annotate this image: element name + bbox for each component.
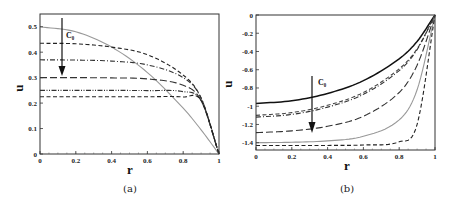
panel-b-xlabel: r bbox=[344, 158, 350, 173]
y-tick-label: -0.8 bbox=[242, 84, 254, 92]
x-tick-label: 0.4 bbox=[323, 153, 332, 161]
arrow-head-icon bbox=[59, 66, 66, 76]
y-tick-label: 0 bbox=[34, 151, 38, 159]
series-curve-3 bbox=[40, 60, 219, 154]
panel-a-xlabel: r bbox=[127, 162, 133, 177]
series-curve-5 bbox=[256, 15, 435, 143]
x-tick-label: 0.8 bbox=[179, 157, 188, 165]
x-tick-label: 0 bbox=[254, 153, 258, 161]
panel-a-annotation: C₀ bbox=[66, 31, 75, 40]
y-tick-label: -1.2 bbox=[242, 121, 254, 129]
x-tick-label: 0.8 bbox=[395, 153, 404, 161]
x-tick-label: 0.4 bbox=[107, 157, 116, 165]
y-tick-label: -0.6 bbox=[242, 66, 254, 74]
x-tick-label: 0.2 bbox=[287, 153, 296, 161]
series-curve-2 bbox=[256, 15, 435, 115]
panel-a: 00.20.40.60.8100.10.20.30.40.5 C₀ u r (a… bbox=[11, 14, 221, 194]
figure: 00.20.40.60.8100.10.20.30.40.5 C₀ u r (a… bbox=[0, 0, 450, 203]
panel-a-ylabel: u bbox=[11, 84, 26, 91]
panel-b-caption: (b) bbox=[340, 183, 354, 194]
panel-a-ticks: 00.20.40.60.8100.10.20.30.40.5 bbox=[28, 23, 221, 165]
y-tick-label: -0.4 bbox=[242, 48, 254, 56]
y-tick-label: 0.2 bbox=[28, 100, 37, 108]
panel-b-ticks: 00.20.40.60.810-0.2-0.4-0.6-0.8-1-1.2-1.… bbox=[242, 12, 437, 162]
panel-b-curves bbox=[256, 15, 435, 145]
y-tick-label: 0.4 bbox=[28, 49, 37, 57]
panel-b-arrow bbox=[309, 76, 316, 133]
y-tick-label: 0.3 bbox=[28, 74, 37, 82]
y-tick-label: 0 bbox=[250, 12, 254, 20]
x-tick-label: 0.2 bbox=[71, 157, 80, 165]
y-tick-label: -0.2 bbox=[242, 30, 254, 38]
series-curve-2 bbox=[40, 43, 219, 154]
series-curve-4 bbox=[256, 15, 435, 133]
series-curve-6 bbox=[40, 95, 219, 154]
panel-b-ylabel: u bbox=[220, 80, 235, 87]
x-tick-label: 1 bbox=[217, 157, 221, 165]
y-tick-label: -1 bbox=[247, 103, 253, 111]
series-curve-6 bbox=[256, 15, 435, 145]
x-tick-label: 0 bbox=[38, 157, 42, 165]
x-tick-label: 1 bbox=[433, 153, 437, 161]
panel-a-curves bbox=[40, 27, 219, 154]
x-tick-label: 0.6 bbox=[359, 153, 368, 161]
y-tick-label: -1.4 bbox=[242, 139, 254, 147]
arrow-head-icon bbox=[309, 122, 316, 133]
y-tick-label: 0.5 bbox=[28, 23, 37, 31]
series-curve-1 bbox=[256, 15, 435, 103]
panel-a-arrow bbox=[59, 18, 66, 76]
panel-b-annotation: C₀ bbox=[318, 78, 327, 87]
series-curve-4 bbox=[40, 78, 219, 154]
x-tick-label: 0.6 bbox=[143, 157, 152, 165]
y-tick-label: 0.1 bbox=[28, 125, 37, 133]
panel-b: 00.20.40.60.810-0.2-0.4-0.6-0.8-1-1.2-1.… bbox=[220, 12, 437, 195]
panel-a-caption: (a) bbox=[123, 183, 137, 194]
series-curve-5 bbox=[40, 90, 219, 154]
